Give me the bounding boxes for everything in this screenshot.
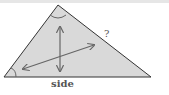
base-label: side bbox=[51, 78, 74, 89]
triangle-diagram bbox=[0, 0, 169, 95]
triangle-shape bbox=[4, 5, 151, 77]
right-side-label: ? bbox=[104, 28, 109, 39]
